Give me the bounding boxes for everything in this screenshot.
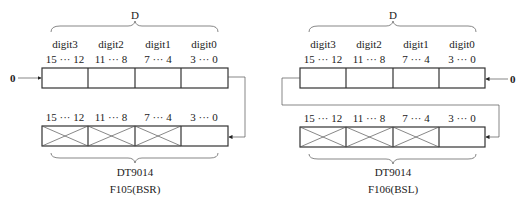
bsr-diagram: D digit3 digit2 digit1 digit0 15 ··· 12 … bbox=[10, 9, 245, 196]
lower-bit-range-3-0: 3 ··· 0 bbox=[448, 112, 476, 124]
bit-range-7-4: 7 ··· 4 bbox=[402, 53, 430, 65]
brace-label-d: D bbox=[131, 9, 139, 21]
shift-out-connector bbox=[228, 77, 245, 137]
register-d bbox=[42, 68, 228, 88]
shift-diagrams: D digit3 digit2 digit1 digit0 15 ··· 12 … bbox=[0, 0, 523, 204]
lower-bit-range-11-8: 11 ··· 8 bbox=[353, 112, 386, 124]
lower-bit-range-15-12: 15 ··· 12 bbox=[46, 111, 85, 123]
caption: F105(BSR) bbox=[110, 183, 161, 196]
top-brace bbox=[51, 21, 218, 32]
bottom-brace bbox=[309, 154, 476, 164]
register-dt9014 bbox=[42, 126, 228, 146]
lower-bit-range-11-8: 11 ··· 8 bbox=[95, 111, 128, 123]
bit-range-3-0: 3 ··· 0 bbox=[190, 53, 218, 65]
bit-range-11-8: 11 ··· 8 bbox=[95, 53, 128, 65]
lower-bit-range-15-12: 15 ··· 12 bbox=[304, 112, 343, 124]
digit1-label: digit1 bbox=[403, 38, 429, 50]
lower-bit-range-7-4: 7 ··· 4 bbox=[402, 112, 430, 124]
digit0-label: digit0 bbox=[191, 38, 217, 50]
brace-label-d: D bbox=[389, 9, 397, 21]
digit0-label: digit0 bbox=[449, 38, 475, 50]
digit3-label: digit3 bbox=[52, 38, 78, 50]
bsl-diagram: D digit3 digit2 digit1 digit0 15 ··· 12 … bbox=[282, 9, 516, 196]
register-label: DT9014 bbox=[375, 166, 412, 178]
bit-range-15-12: 15 ··· 12 bbox=[46, 53, 85, 65]
bottom-brace bbox=[51, 153, 218, 163]
input-zero: 0 bbox=[510, 73, 516, 85]
digit2-label: digit2 bbox=[356, 38, 382, 50]
input-zero: 0 bbox=[10, 72, 16, 84]
top-brace bbox=[309, 21, 476, 32]
digit3-label: digit3 bbox=[310, 38, 336, 50]
lower-bit-range-3-0: 3 ··· 0 bbox=[190, 111, 218, 123]
register-d bbox=[300, 68, 485, 88]
bit-range-3-0: 3 ··· 0 bbox=[448, 53, 476, 65]
bit-range-11-8: 11 ··· 8 bbox=[353, 53, 386, 65]
register-label: DT9014 bbox=[117, 166, 154, 178]
bit-range-15-12: 15 ··· 12 bbox=[304, 53, 343, 65]
caption: F106(BSL) bbox=[368, 183, 418, 196]
digit1-label: digit1 bbox=[145, 38, 171, 50]
register-dt9014 bbox=[300, 127, 485, 147]
digit2-label: digit2 bbox=[98, 38, 124, 50]
lower-bit-range-7-4: 7 ··· 4 bbox=[144, 111, 172, 123]
bit-range-7-4: 7 ··· 4 bbox=[144, 53, 172, 65]
